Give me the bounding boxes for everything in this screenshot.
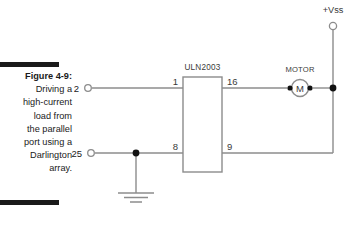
terminal-port-pin-25 bbox=[88, 150, 95, 157]
figure-container: Figure 4-9: Driving a high-current load … bbox=[0, 0, 358, 225]
port-pin-25-label: 25 bbox=[71, 148, 82, 159]
junction-dot-ground bbox=[133, 150, 140, 157]
port-pin-2-label: 2 bbox=[74, 83, 79, 94]
ic-pin-label-1: 1 bbox=[173, 76, 178, 87]
ic-pin-label-9: 9 bbox=[227, 141, 232, 152]
vss-label: +Vss bbox=[323, 5, 344, 15]
junction-dot-vss-motor bbox=[330, 85, 337, 92]
terminal-vss bbox=[329, 22, 336, 29]
circuit-schematic: ULN2003 1 16 8 9 2 25 +Vss MOTOR M bbox=[0, 0, 358, 225]
ic-pin-label-8: 8 bbox=[173, 141, 178, 152]
motor-terminal-left bbox=[287, 85, 292, 90]
terminal-port-pin-2 bbox=[85, 85, 92, 92]
ground-symbol bbox=[118, 193, 154, 202]
motor-terminal-right bbox=[307, 85, 312, 90]
ic-name-label: ULN2003 bbox=[185, 63, 221, 72]
motor-symbol-letter: M bbox=[296, 83, 304, 94]
ic-pin-label-16: 16 bbox=[227, 76, 238, 87]
motor-label: MOTOR bbox=[285, 65, 314, 74]
ic-uln2003-body bbox=[183, 77, 222, 172]
